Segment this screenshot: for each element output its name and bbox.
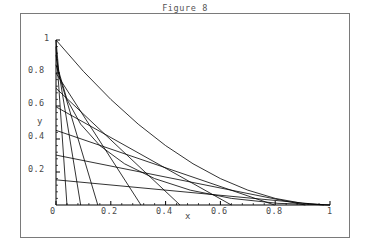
x-tick-label: 0.4 (156, 206, 173, 216)
figure-root: Figure 8 00.20.40.60.810.20.40.60.81xy (0, 0, 370, 252)
x-tick-label: 1 (327, 206, 333, 216)
y-tick-label: 0.6 (28, 98, 45, 108)
figure-frame (20, 13, 350, 238)
y-tick-label: 0.8 (28, 65, 45, 75)
y-tick-label: 0.4 (28, 131, 45, 141)
x-tick-label: 0.8 (266, 206, 283, 216)
x-tick-label: 0.6 (211, 206, 228, 216)
figure-title: Figure 8 (0, 3, 370, 13)
y-axis-label: y (37, 116, 42, 126)
x-axis-label: x (185, 211, 190, 221)
y-tick-label: 1 (44, 33, 50, 43)
x-tick-label: 0.2 (101, 206, 118, 216)
x-tick-label: 0 (50, 206, 56, 216)
y-tick-label: 0.2 (28, 164, 45, 174)
